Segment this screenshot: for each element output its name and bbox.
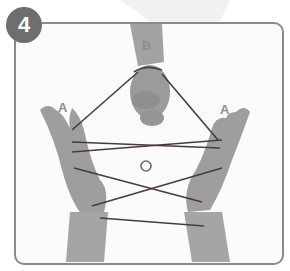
- string-top-to-right: [162, 74, 218, 140]
- string-left-to-top: [72, 72, 138, 130]
- string-upper-cross-1: [72, 142, 220, 148]
- string-upper-cross-2: [72, 140, 222, 152]
- center-marker-icon: [141, 161, 151, 171]
- string-figure-illustration: B A A: [0, 0, 290, 271]
- step-number: 4: [18, 12, 30, 38]
- label-left-hand: A: [58, 100, 68, 115]
- label-right-hand: A: [220, 102, 230, 117]
- step-number-badge: 4: [6, 7, 42, 43]
- left-hand: [40, 106, 108, 262]
- right-hand: [184, 108, 250, 262]
- label-top-hand: B: [142, 38, 151, 53]
